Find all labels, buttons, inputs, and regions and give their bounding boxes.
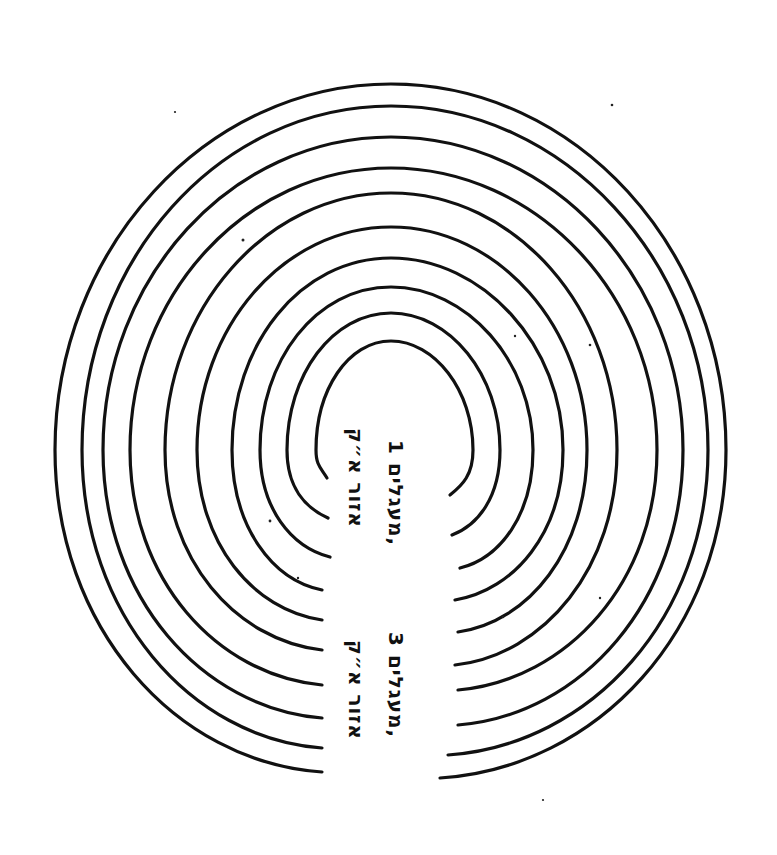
label-upper-right: מעגלים 1, bbox=[384, 440, 408, 546]
arc-ring-4 bbox=[130, 168, 657, 690]
label-upper-left: אזור א״ק bbox=[344, 428, 368, 528]
arc-ring-7 bbox=[232, 258, 563, 600]
label-lower-left: אזור א״ק bbox=[344, 640, 368, 740]
label-lower-right: מעגלים 3, bbox=[384, 632, 408, 738]
